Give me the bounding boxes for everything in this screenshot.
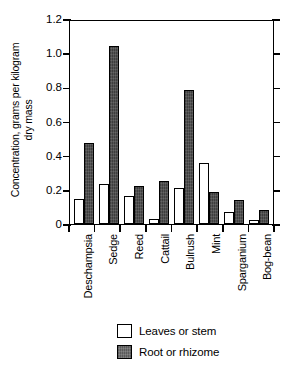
x-axis-tick <box>94 225 96 232</box>
bar-root-bog-bean <box>259 210 269 224</box>
bar-root-mint <box>209 192 219 224</box>
bar-root-reed <box>134 186 144 224</box>
bar-leaf-sparganium <box>224 212 234 224</box>
bar-group <box>71 21 96 224</box>
legend-label: Leaves or stem <box>139 325 216 337</box>
plot-area <box>69 20 274 225</box>
bar-root-cattail <box>159 181 169 224</box>
x-axis-tick <box>222 225 224 232</box>
bar-group <box>96 21 121 224</box>
y-axis-tick-label: 1.0 <box>22 48 62 60</box>
x-axis-category-label: Bulrush <box>184 234 197 270</box>
bar-root-deschampsia <box>84 143 94 224</box>
bar-leaf-deschampsia <box>74 199 84 224</box>
y-axis-title-line1: Concentration, grams per kilogram <box>9 43 21 197</box>
x-axis-label-slot: Deschampsia <box>69 234 95 312</box>
legend: Leaves or stemRoot or rhizome <box>117 322 287 364</box>
bar-root-sedge <box>109 46 119 224</box>
bar-leaf-mint <box>199 163 209 224</box>
x-axis-tick <box>273 225 275 232</box>
bar-group <box>222 21 247 224</box>
bar-group <box>146 21 171 224</box>
y-axis-tick-label: 0.2 <box>22 185 62 197</box>
x-axis-category-label: Sparganium <box>236 234 249 291</box>
y-axis-tick-label: 0.6 <box>22 117 62 129</box>
bar-leaf-sedge <box>99 184 109 224</box>
x-axis-tick <box>119 225 121 232</box>
legend-item: Leaves or stem <box>117 322 287 340</box>
y-axis-tick-label: 0.8 <box>22 82 62 94</box>
legend-swatch-root <box>117 345 132 359</box>
legend-label: Root or rhizome <box>139 346 219 358</box>
x-axis-category-label: Deschampsia <box>82 234 95 298</box>
x-axis-tick <box>68 225 70 232</box>
x-axis-tick <box>196 225 198 232</box>
x-axis-category-label: Cattail <box>159 234 172 264</box>
bar-group <box>197 21 222 224</box>
bar-chart-figure: Concentration, grams per kilogram dry ma… <box>0 0 305 373</box>
bars-container <box>70 21 273 224</box>
legend-item: Root or rhizome <box>117 343 287 361</box>
x-axis-label-slot: Mint <box>197 234 223 312</box>
x-axis-category-label: Bog-bean <box>261 234 274 280</box>
x-axis-label-slot: Bulrush <box>171 234 197 312</box>
x-axis-label-slot: Cattail <box>146 234 172 312</box>
x-axis-category-labels: DeschampsiaSedgeReedCattailBulrushMintSp… <box>69 234 274 312</box>
y-axis-tick-label: 0 <box>22 219 62 231</box>
y-axis-tick-label: 1.2 <box>22 14 62 26</box>
x-axis-tick <box>248 225 250 232</box>
x-axis-tick <box>171 225 173 232</box>
bar-group <box>247 21 272 224</box>
bar-leaf-reed <box>124 196 134 224</box>
bar-root-sparganium <box>234 200 244 224</box>
x-axis-category-label: Mint <box>210 234 223 254</box>
x-axis-label-slot: Bog-bean <box>248 234 274 312</box>
x-axis-label-slot: Sparganium <box>223 234 249 312</box>
x-axis-label-slot: Reed <box>120 234 146 312</box>
bar-leaf-cattail <box>149 219 159 224</box>
bar-group <box>172 21 197 224</box>
bar-group <box>121 21 146 224</box>
x-axis-category-label: Reed <box>133 234 146 260</box>
bar-leaf-bog-bean <box>249 220 259 224</box>
bar-leaf-bulrush <box>174 188 184 224</box>
bar-root-bulrush <box>184 90 194 224</box>
y-axis-tick-label: 0.4 <box>22 151 62 163</box>
x-axis-category-label: Sedge <box>107 234 120 265</box>
x-axis-tick <box>145 225 147 232</box>
legend-swatch-leaf <box>117 324 132 338</box>
x-axis-label-slot: Sedge <box>94 234 120 312</box>
